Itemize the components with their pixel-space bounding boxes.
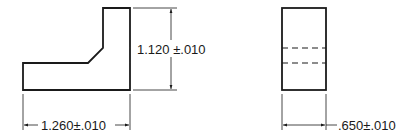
width-dimension-label: 1.260±.010 (41, 118, 106, 133)
side-width-dimension-label: .650±.010 (338, 118, 396, 133)
height-dimension-label: 1.120 ±.010 (137, 42, 206, 57)
side-view: .650±.010 (282, 8, 396, 133)
technical-drawing: 1.120 ±.010 1.260±.010 .650±.010 (0, 0, 420, 140)
side-view-outline (282, 8, 326, 90)
front-view-outline (23, 8, 130, 90)
front-view: 1.120 ±.010 1.260±.010 (23, 8, 214, 133)
